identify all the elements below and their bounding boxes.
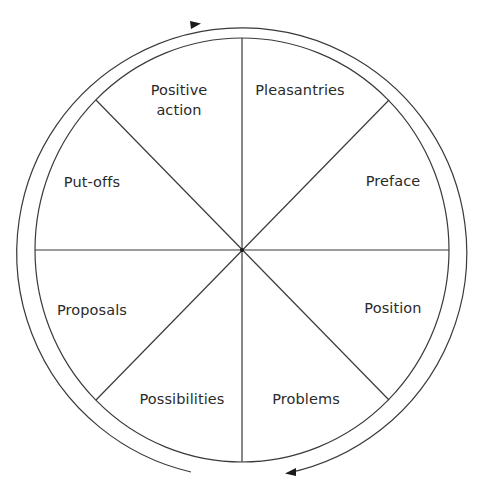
segment-label-positive-action-line1: Positive — [151, 80, 208, 100]
arrowhead-bottom-icon — [285, 468, 296, 476]
arrowhead-top-icon — [190, 21, 201, 29]
segment-label-positive-action: Positive action — [151, 80, 208, 120]
segment-label-put-offs: Put-offs — [64, 172, 120, 192]
segment-label-preface: Preface — [366, 171, 421, 191]
communication-cycle-diagram — [0, 0, 480, 489]
segment-label-proposals: Proposals — [57, 300, 127, 320]
segment-label-position: Position — [364, 298, 421, 318]
segment-label-possibilities: Possibilities — [139, 389, 224, 409]
center-point — [240, 248, 244, 252]
segment-label-problems: Problems — [272, 389, 340, 409]
segment-label-pleasantries: Pleasantries — [255, 80, 345, 100]
segment-label-positive-action-line2: action — [151, 100, 208, 120]
